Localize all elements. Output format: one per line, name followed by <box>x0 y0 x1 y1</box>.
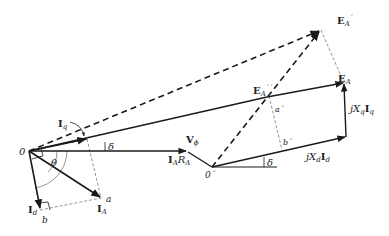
svg-text:Iq: Iq <box>58 118 68 131</box>
svg-text:Vϕ: Vϕ <box>185 134 199 147</box>
svg-text:IARA: IARA <box>168 154 190 167</box>
jxqiq-phasor <box>344 84 346 137</box>
jxqiq-label: jX <box>348 103 361 114</box>
right-angle-b <box>39 202 50 210</box>
svg-text:jXqIq: jXqIq <box>348 103 374 116</box>
svg-text:jXdId: jXdId <box>304 151 330 164</box>
svg-text:θ: θ <box>51 157 57 168</box>
svg-text:0: 0 <box>19 146 26 157</box>
dashed-origin-to-ea-prime <box>29 31 319 151</box>
jxdid-label: jX <box>304 151 317 162</box>
svg-text:EA´: EA´ <box>337 14 353 28</box>
point-a-label: a <box>106 194 111 204</box>
svg-text:b´: b´ <box>283 138 293 147</box>
svg-text:IA: IA <box>97 203 107 216</box>
v-phi-label: V <box>185 134 194 145</box>
origin-prime-label: 0´ <box>205 170 216 180</box>
ia-phasor <box>29 151 100 197</box>
theta-label: θ <box>51 157 57 168</box>
svg-text:Id: Id <box>28 204 38 217</box>
iq-phasor <box>29 139 86 151</box>
id-phasor <box>29 151 40 208</box>
delta-bottom-label: δ <box>267 157 273 168</box>
phasor-diagram: 0 0´ Vϕ IARA Iq Id IA θ δ δ a b a´ b´ EA… <box>0 0 389 236</box>
origin-label: 0 <box>19 146 26 157</box>
svg-text:δ: δ <box>108 141 114 152</box>
iq-pointer-curve <box>70 122 84 136</box>
delta-top-label: δ <box>108 141 114 152</box>
svg-text:a: a <box>106 194 111 204</box>
point-a-prime-label: a´ <box>275 105 285 114</box>
svg-text:a´: a´ <box>275 105 285 114</box>
point-b-prime-label: b´ <box>283 138 293 147</box>
svg-text:b: b <box>42 215 48 225</box>
svg-text:0´: 0´ <box>205 170 216 180</box>
point-b-label: b <box>42 215 48 225</box>
ea-phasor <box>267 83 343 97</box>
svg-text:δ: δ <box>267 157 273 168</box>
ia-ra-phasor <box>188 152 212 167</box>
